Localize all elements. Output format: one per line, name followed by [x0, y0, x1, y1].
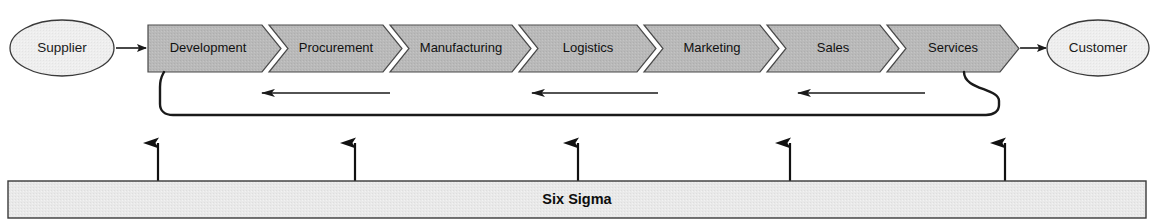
stage-manufacturing: Manufacturing [390, 25, 531, 72]
stage-chevrons: Development Procurement Manufacturing Lo… [148, 25, 1019, 72]
stage-label-manufacturing: Manufacturing [420, 40, 502, 55]
stage-label-logistics: Logistics [563, 40, 614, 55]
stage-marketing: Marketing [644, 25, 779, 72]
stage-label-development: Development [170, 40, 247, 55]
stage-label-services: Services [928, 40, 978, 55]
stage-label-procurement: Procurement [299, 40, 374, 55]
customer-node: Customer [1047, 20, 1149, 76]
process-chain-diagram: Supplier Development Procurement Manufac… [0, 0, 1154, 220]
six-sigma-bar-label: Six Sigma [542, 191, 612, 207]
stage-procurement: Procurement [269, 25, 402, 72]
stage-services: Services [887, 25, 1019, 72]
supplier-node: Supplier [10, 20, 114, 76]
stage-logistics: Logistics [519, 25, 656, 72]
stage-development: Development [148, 25, 281, 72]
customer-label: Customer [1069, 40, 1128, 55]
diagram-canvas: Supplier Development Procurement Manufac… [0, 0, 1154, 220]
stage-label-marketing: Marketing [683, 40, 740, 55]
six-sigma-bar: Six Sigma [8, 181, 1146, 218]
six-sigma-support-arrows [158, 143, 1005, 181]
stage-sales: Sales [767, 25, 899, 72]
supplier-label: Supplier [37, 40, 87, 55]
stage-label-sales: Sales [817, 40, 850, 55]
